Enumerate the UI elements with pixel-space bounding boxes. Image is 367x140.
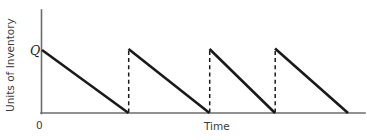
depletion-line-cycle-1 [42, 50, 129, 113]
depletion-line-cycle-3 [210, 49, 276, 113]
inventory-sawtooth-chart: Q 0 Time Units of Inventory [0, 0, 367, 140]
chart-canvas: Q 0 Time Units of Inventory [0, 0, 367, 140]
order-quantity-label: Q [30, 43, 40, 58]
depletion-line-cycle-2 [129, 49, 210, 113]
origin-tick-label: 0 [36, 119, 43, 131]
depletion-line-cycle-4 [275, 49, 348, 114]
x-axis-title: Time [203, 120, 230, 132]
y-axis-title: Units of Inventory [4, 18, 16, 112]
